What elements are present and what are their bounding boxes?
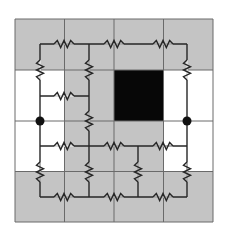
resistor-grid-diagram	[0, 0, 226, 238]
left-terminal-dot-icon	[36, 117, 45, 126]
right-terminal-dot-icon	[183, 117, 192, 126]
grid-cell-white	[164, 70, 214, 121]
grid-cell-black	[114, 70, 164, 121]
